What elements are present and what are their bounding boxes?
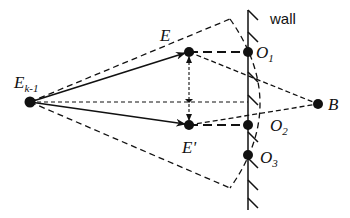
node-e-k-1	[25, 97, 36, 108]
label-e-k-1: Ek-1	[13, 73, 38, 94]
search-cone	[30, 19, 260, 188]
label-o3: O3	[260, 148, 278, 169]
label-o2: O2	[270, 116, 288, 137]
arrow-to-e-prime	[30, 102, 185, 124]
arrow-to-e	[30, 53, 185, 102]
label-e: E	[159, 26, 171, 45]
node-e	[184, 47, 194, 57]
label-o1: O1	[256, 43, 274, 64]
wall	[248, 10, 258, 210]
node-o3	[243, 150, 253, 160]
node-e-prime	[184, 120, 194, 130]
label-wall: wall	[269, 10, 296, 27]
diagram-canvas: Ek-1 E E' O1 O2 O3 B wall	[0, 0, 350, 218]
label-b: B	[328, 95, 339, 114]
node-b	[313, 99, 323, 109]
node-o2	[243, 120, 253, 130]
node-o1	[243, 47, 253, 57]
label-e-prime: E'	[181, 138, 196, 157]
eprime-to-b	[189, 104, 318, 125]
